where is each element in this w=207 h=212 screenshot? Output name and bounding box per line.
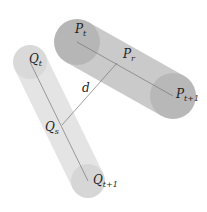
label-distance: d bbox=[82, 81, 90, 95]
label-q-t1: Qt+1 bbox=[93, 173, 118, 189]
segment-q bbox=[30, 62, 88, 181]
capsule-distance-diagram: Pt Pr Pt+1 Qt Qs Qt+1 d bbox=[0, 0, 207, 212]
